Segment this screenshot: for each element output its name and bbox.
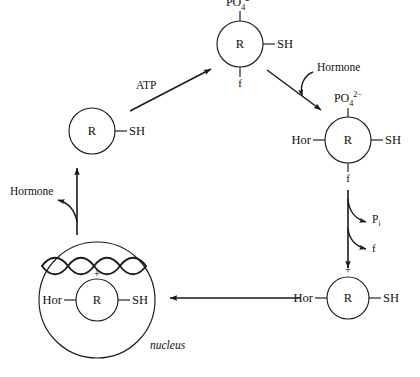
phosphate-formula: PO42− [226,0,254,9]
node-label-receptor-hormone-active-hormone: Hor [294,292,313,305]
hormone-receptor-cycle-diagram [0,0,420,377]
arrow-hormone-binding [301,72,313,96]
node-receptor-unphosphorylated [69,108,127,154]
node-label-receptor-hormone-phos-factor: f [346,173,350,184]
node-label-receptor-hormone-phos-hormone: Hor [292,134,311,147]
node-label-receptor-nuclear-charge: + [94,268,101,280]
node-receptor-phosphorylated [217,11,275,77]
phosphate-formula: PO42− [334,91,362,105]
phosphate-subscript: 4 [349,99,353,108]
node-label-receptor-hormone-active-center: R [344,292,352,305]
node-label-receptor-hormone-phos-phosphate: PO42− [334,91,362,108]
arrow-hormone-release [58,200,77,222]
node-label-receptor-hormone-active-charge: + [345,264,352,276]
annotation-phosphate-released: Pi [372,214,381,228]
node-label-receptor-hormone-phos-center: R [344,134,352,147]
pi-subscript: i [378,219,380,228]
arrow-top-to-right [267,70,321,110]
node-label-receptor-phosphorylated-factor: f [238,78,242,89]
arrow-release-factor [348,228,366,249]
node-label-receptor-nuclear-center: R [93,294,101,307]
annotation-hormone-binding: Hormone [317,62,360,74]
node-label-receptor-hormone-phos-thiol: SH [385,134,401,147]
node-label-receptor-unphosphorylated-thiol: SH [129,125,145,138]
node-label-receptor-hormone-active-thiol: SH [383,292,399,305]
node-label-receptor-nuclear-hormone: Hor [43,294,62,307]
arrow-release-phosphate [348,199,366,222]
node-label-receptor-phosphorylated-thiol: SH [277,38,293,51]
annotation-atp: ATP [136,80,156,92]
node-label-receptor-phosphorylated-center: R [236,38,244,51]
phosphate-subscript: 4 [241,3,245,12]
node-label-receptor-nuclear-thiol: SH [132,294,148,307]
nucleus-label: nucleus [150,340,185,352]
annotation-hormone-release: Hormone [10,186,53,198]
phosphate-charge: 2− [353,90,362,99]
phosphate-charge: 2− [245,0,254,3]
annotation-factor-released: f [372,243,376,254]
node-label-receptor-unphosphorylated-center: R [88,125,96,138]
node-label-receptor-phosphorylated-phosphate: PO42− [226,0,254,12]
